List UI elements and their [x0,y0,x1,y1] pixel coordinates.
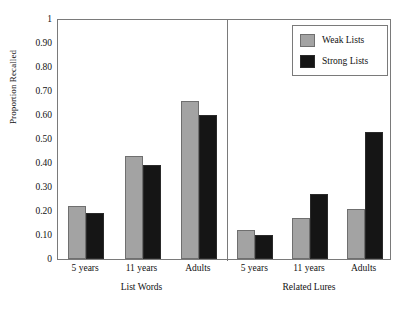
legend-label-strong-lists: Strong Lists [322,56,368,66]
bar-weak-lists [181,101,199,259]
y-tick-label: 0.70 [18,86,52,96]
y-tick-label: 0.60 [18,110,52,120]
y-tick-label: 0.10 [18,230,52,240]
bar-weak-lists [292,218,310,259]
bar-strong-lists [86,213,104,259]
legend-label-weak-lists: Weak Lists [322,35,364,45]
y-tick-label: 0.20 [18,206,52,216]
bar-weak-lists [347,209,365,259]
bar-strong-lists [199,115,217,259]
x-tick-label: Adults [324,263,404,273]
bar-weak-lists [237,230,255,259]
legend-swatch-strong-lists-icon [300,55,315,68]
bar-weak-lists [68,206,86,259]
legend-item-weak-lists: Weak Lists [300,32,364,48]
bar-strong-lists [255,235,273,259]
bar-strong-lists [310,194,328,259]
bar-weak-lists [125,156,143,259]
y-tick-label: 0.50 [18,134,52,144]
legend-item-strong-lists: Strong Lists [300,53,368,69]
bar-strong-lists [365,132,383,259]
legend: Weak Lists Strong Lists [292,25,388,76]
y-tick-label: 0.80 [18,62,52,72]
bar-chart-figure: Proportion Recalled 10.900.800.700.600.5… [0,0,409,312]
panel-label: Related Lures [249,282,369,292]
panel-divider [227,20,228,261]
y-tick-label: 1 [18,14,52,24]
panel-label: List Words [82,282,202,292]
y-tick-label: 0.90 [18,38,52,48]
bar-strong-lists [143,165,161,259]
legend-swatch-weak-lists-icon [300,34,315,47]
y-tick-label: 0.40 [18,158,52,168]
y-tick-label: 0.30 [18,182,52,192]
